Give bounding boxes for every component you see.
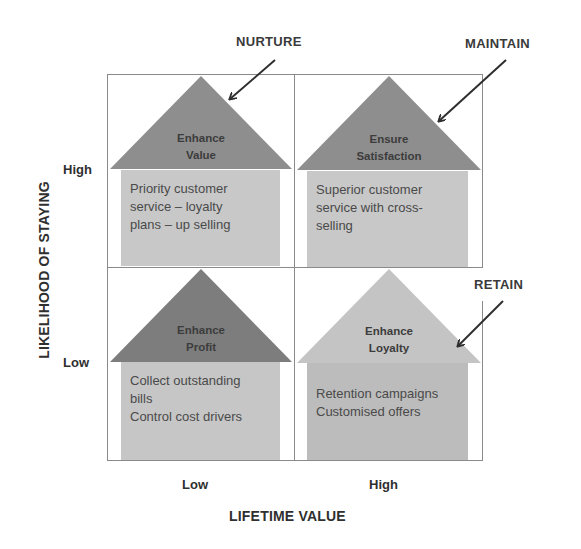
x-tick-low: Low <box>182 477 208 492</box>
arrow-maintain-icon <box>439 60 506 121</box>
arrow-nurture-icon <box>230 60 275 99</box>
y-tick-high: High <box>63 162 92 177</box>
y-tick-low: Low <box>63 355 89 370</box>
callout-arrows <box>0 0 581 549</box>
arrow-retain-icon <box>458 301 503 346</box>
x-tick-high: High <box>369 477 398 492</box>
y-axis-title: LIKELIHOOD OF STAYING <box>36 170 52 370</box>
x-axis-title: LIFETIME VALUE <box>229 508 346 524</box>
